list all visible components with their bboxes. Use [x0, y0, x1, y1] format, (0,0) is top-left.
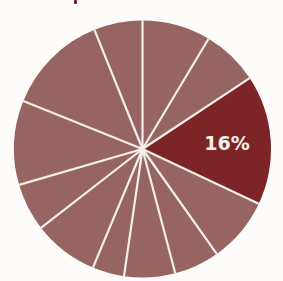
- highlight-slice-label: 16%: [204, 132, 249, 154]
- pie-chart: 16%: [0, 0, 283, 281]
